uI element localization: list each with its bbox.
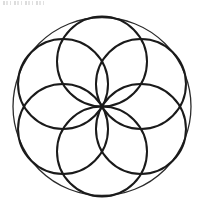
background-rect: [0, 0, 201, 202]
seed-of-life-figure: [0, 0, 201, 202]
image-canvas: Seed of Life Rosette: [0, 0, 201, 202]
